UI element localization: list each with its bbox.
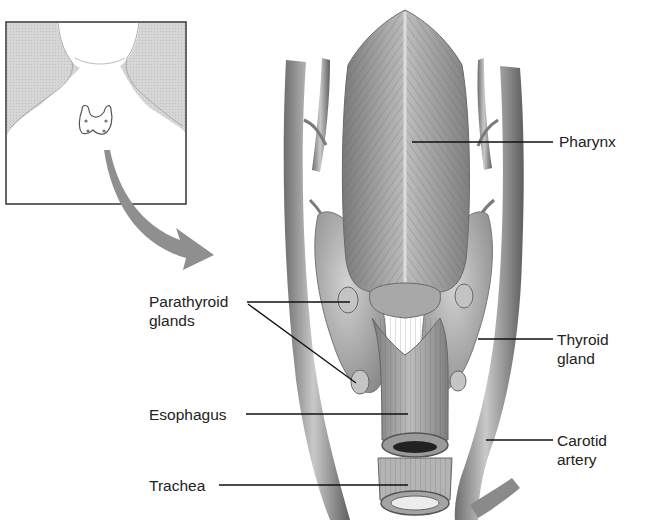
label-text: gland bbox=[557, 349, 609, 368]
anatomy-illustration bbox=[0, 0, 646, 531]
pharynx-illustration bbox=[342, 10, 469, 318]
label-text: Pharynx bbox=[559, 132, 616, 151]
label-carotid-artery: Carotid artery bbox=[557, 431, 607, 469]
esophagus-illustration bbox=[372, 318, 448, 457]
label-text: Carotid bbox=[557, 431, 607, 450]
label-text: glands bbox=[149, 311, 228, 330]
trachea-illustration bbox=[378, 458, 452, 515]
label-thyroid-gland: Thyroid gland bbox=[557, 330, 609, 368]
label-parathyroid-glands: Parathyroid glands bbox=[149, 292, 228, 330]
label-text: Trachea bbox=[149, 476, 205, 495]
label-text: Esophagus bbox=[149, 405, 227, 424]
label-text: Thyroid bbox=[557, 330, 609, 349]
label-pharynx: Pharynx bbox=[559, 132, 616, 151]
label-trachea: Trachea bbox=[149, 476, 205, 495]
neck-inset-icon bbox=[6, 22, 186, 204]
anatomy-diagram: Pharynx Parathyroid glands Thyroid gland… bbox=[0, 0, 646, 531]
label-esophagus: Esophagus bbox=[149, 405, 227, 424]
label-text: artery bbox=[557, 450, 607, 469]
label-text: Parathyroid bbox=[149, 292, 228, 311]
